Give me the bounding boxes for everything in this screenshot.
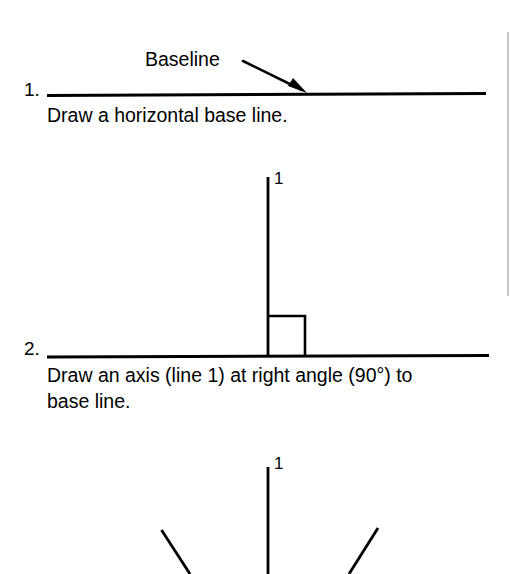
step3-left-diagonal-line	[162, 530, 191, 574]
baseline-annotation-label: Baseline	[145, 49, 220, 69]
figure-page: Baseline 1. Draw a horizontal base line.…	[0, 0, 516, 574]
step-2-caption-line-2: base line.	[47, 389, 412, 415]
step-2-caption: Draw an axis (line 1) at right angle (90…	[47, 363, 412, 414]
right-angle-marker	[268, 316, 305, 356]
step-3-axis-label: 1	[274, 455, 283, 472]
step1-base-line	[47, 94, 486, 96]
step-1-caption: Draw a horizontal base line.	[47, 103, 288, 128]
step-1-number: 1.	[24, 80, 40, 99]
step-2-caption-line-1: Draw an axis (line 1) at right angle (90…	[47, 363, 412, 389]
step3-right-diagonal-line	[349, 528, 378, 574]
instructional-figure	[0, 0, 516, 574]
step-2-number: 2.	[24, 339, 40, 358]
step-2-axis-label: 1	[274, 170, 283, 187]
baseline-arrowhead-icon	[288, 78, 307, 93]
